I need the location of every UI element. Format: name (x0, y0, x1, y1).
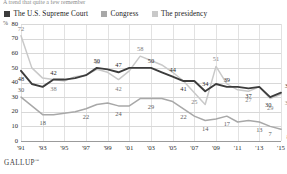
x-axis-tick-01: '01 (125, 144, 133, 152)
y-axis-labels: 80706050403020100 (0, 24, 20, 141)
legend-swatch-icon (4, 11, 10, 17)
data-label: 50 (148, 58, 154, 64)
legend-swatch-icon (101, 11, 107, 17)
chart-legend: The U.S. Supreme CourtCongressThe presid… (4, 9, 220, 18)
data-label: 33 (285, 83, 287, 89)
x-axis-tick-05: '05 (169, 144, 177, 152)
x-axis-labels: '91'93'95'97'99'01'03'05'07'09'11'13'15 (21, 144, 281, 154)
data-label: 7 (269, 131, 272, 137)
gallup-line-chart: A trend that quite a few remember The U.… (0, 0, 287, 174)
data-label: 51 (213, 56, 219, 62)
data-label: 18 (39, 119, 45, 125)
y-axis-tick-70: 70 (11, 35, 18, 42)
data-label: 39 (224, 77, 230, 83)
x-axis-tick-95: '95 (60, 144, 68, 152)
plot-area: 4842504750444134393730333018222429221417… (21, 24, 281, 141)
legend-swatch-icon (152, 11, 158, 17)
data-label: 30 (18, 87, 24, 93)
data-label: 8 (286, 134, 287, 140)
data-label: 38 (50, 85, 56, 91)
legend-item-court: The U.S. Supreme Court (4, 9, 88, 18)
legend-item-congress: Congress (101, 9, 138, 18)
series-line-court (21, 68, 281, 97)
data-label: 48 (18, 76, 24, 82)
x-axis-tick-03: '03 (147, 144, 155, 152)
data-label: 13 (256, 127, 262, 133)
data-label: 29 (267, 104, 273, 110)
data-label: 32 (285, 100, 287, 106)
data-label: 34 (202, 81, 208, 87)
x-axis-tick-91: '91 (17, 144, 25, 152)
y-axis-tick-60: 60 (11, 50, 18, 57)
x-axis-tick-97: '97 (82, 144, 90, 152)
data-label: 72 (18, 25, 24, 31)
trademark-icon: ™ (35, 158, 39, 163)
data-label: 49 (94, 59, 100, 65)
gridline (21, 141, 281, 142)
chart-headline: A trend that quite a few remember (3, 0, 233, 6)
data-label: 42 (50, 69, 56, 75)
legend-label: Congress (111, 9, 139, 18)
x-axis-tick-15: '15 (277, 144, 285, 152)
source-label: GALLUP (4, 159, 35, 167)
y-axis-tick-30: 30 (11, 94, 18, 101)
series-lines (21, 24, 281, 141)
legend-item-presidency: The presidency (152, 9, 208, 18)
legend-label: The presidency (161, 9, 207, 18)
data-label: 27 (245, 97, 251, 103)
series-line-presidency (21, 36, 281, 105)
data-label: 47 (115, 62, 121, 68)
legend-label: The U.S. Supreme Court (14, 9, 89, 18)
x-axis-tick-09: '09 (212, 144, 220, 152)
data-label: 29 (148, 103, 154, 109)
data-label: 41 (180, 86, 186, 92)
y-axis-tick-10: 10 (11, 123, 18, 130)
data-label: 42 (115, 85, 121, 91)
x-axis-tick-11: '11 (234, 144, 242, 152)
y-axis-tick-20: 20 (11, 108, 18, 115)
source-credit: GALLUP™ (4, 158, 39, 167)
data-label: 25 (191, 99, 197, 105)
data-label: 22 (83, 114, 89, 120)
y-axis-tick-50: 50 (11, 65, 18, 72)
data-label: 58 (137, 46, 143, 52)
data-label: 14 (202, 125, 208, 131)
data-label: 44 (169, 66, 175, 72)
x-axis-tick-07: '07 (190, 144, 198, 152)
data-label: 22 (180, 114, 186, 120)
x-axis-tick-13: '13 (255, 144, 263, 152)
vertical-gridline (281, 24, 282, 141)
x-axis-tick-93: '93 (39, 144, 47, 152)
x-axis-tick-99: '99 (104, 144, 112, 152)
data-label: 17 (224, 121, 230, 127)
data-label: 24 (115, 111, 121, 117)
